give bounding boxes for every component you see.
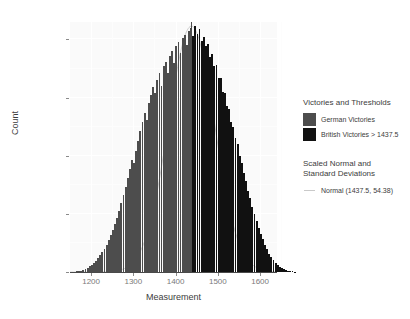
chart-root: 12001300140015001600 01000200030004000 M… (0, 0, 410, 319)
plot-panel (70, 22, 277, 272)
y-tick (66, 214, 69, 215)
y-tick (66, 272, 69, 273)
x-axis-line (70, 272, 277, 273)
legend-item-normal[interactable]: Normal (1437.5, 54.38) (303, 184, 408, 197)
y-tick (66, 156, 69, 157)
legend-item-german[interactable]: German Victories (303, 113, 408, 126)
legend-title-normal-line2: Standard Deviations (303, 169, 408, 179)
legend-item-british[interactable]: British Victories > 1437.5 (303, 128, 408, 141)
x-axis-label: Measurement (70, 292, 277, 302)
threshold-line (191, 22, 192, 272)
gridline-v-minor (281, 22, 282, 272)
x-tick-label: 1200 (82, 277, 100, 286)
x-tick-label: 1500 (209, 277, 227, 286)
legend-label-normal: Normal (1437.5, 54.38) (321, 187, 393, 194)
y-tick (66, 98, 69, 99)
y-tick (66, 39, 69, 40)
x-tick (133, 273, 134, 276)
y-axis-label: Count (10, 111, 20, 135)
histogram-bars (70, 22, 277, 272)
legend: Victories and Thresholds German Victorie… (303, 98, 408, 199)
legend-title-normal: Scaled Normal and Standard Deviations (303, 159, 408, 179)
x-tick-label: 1300 (124, 277, 142, 286)
legend-swatch-german (303, 113, 316, 126)
x-tick-label: 1600 (251, 277, 269, 286)
x-tick (260, 273, 261, 276)
legend-label-german: German Victories (321, 116, 375, 123)
x-tick (218, 273, 219, 276)
legend-line-sample-normal (303, 184, 316, 197)
plot-area: 12001300140015001600 01000200030004000 M… (0, 0, 300, 319)
legend-swatch-british (303, 128, 316, 141)
x-tick-label: 1400 (167, 277, 185, 286)
legend-block-normal: Scaled Normal and Standard Deviations No… (303, 159, 408, 197)
legend-title-victories: Victories and Thresholds (303, 98, 408, 108)
x-tick (91, 273, 92, 276)
x-tick (176, 273, 177, 276)
legend-label-british: British Victories > 1437.5 (321, 131, 399, 138)
legend-title-normal-line1: Scaled Normal and (303, 159, 408, 169)
